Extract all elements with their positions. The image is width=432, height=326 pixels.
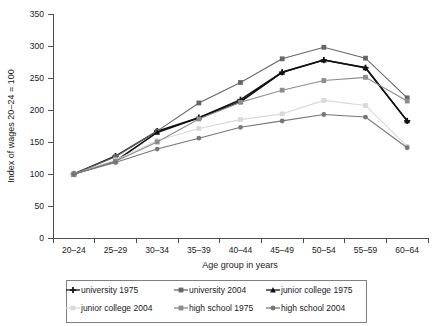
data-point-marker (179, 288, 184, 293)
x-tick-label: 35–39 (187, 245, 211, 255)
x-tick-label: 55–59 (354, 245, 378, 255)
data-point-marker (238, 117, 243, 122)
x-tick-label: 45–49 (270, 245, 294, 255)
legend-label: university 1975 (81, 285, 138, 295)
x-tick-label: 50–54 (312, 245, 336, 255)
data-point-marker (405, 145, 410, 150)
y-tick-label: 250 (30, 73, 44, 83)
y-tick-label: 50 (35, 201, 45, 211)
data-point-marker (363, 103, 368, 108)
data-point-marker (196, 126, 201, 131)
wage-index-line-chart: 050100150200250300350 20–2425–2930–3435–… (0, 0, 432, 326)
data-point-marker (280, 111, 285, 116)
legend-label: junior college 1975 (280, 285, 353, 295)
series-junior-college-2004 (71, 98, 409, 176)
x-tick-label: 60–64 (395, 245, 419, 255)
y-tick-label: 300 (30, 41, 44, 51)
legend-label: university 2004 (189, 285, 246, 295)
x-tick-label: 40–44 (229, 245, 253, 255)
data-point-marker (321, 98, 326, 103)
data-point-marker (363, 56, 368, 61)
data-point-marker (280, 88, 285, 93)
y-tick-label: 150 (30, 137, 44, 147)
data-point-marker (155, 140, 160, 145)
y-tick-label: 0 (39, 233, 44, 243)
data-point-marker (238, 80, 243, 85)
data-point-marker (280, 118, 285, 123)
data-point-marker (280, 56, 285, 61)
data-point-marker (196, 117, 201, 122)
data-point-marker (405, 99, 410, 104)
data-point-marker (179, 306, 184, 311)
data-point-marker (71, 172, 76, 177)
x-tick-label: 30–34 (145, 245, 169, 255)
data-point-marker (196, 101, 201, 106)
data-point-marker (238, 125, 243, 130)
y-axis-title: Index of wages 20–24 = 100 (6, 69, 16, 182)
data-point-marker (321, 112, 326, 117)
legend-label: high school 1975 (189, 303, 254, 313)
x-tick-label: 25–29 (104, 245, 128, 255)
data-point-marker (363, 75, 368, 80)
data-point-marker (113, 160, 118, 165)
data-point-marker (321, 78, 326, 83)
data-point-marker (321, 45, 326, 50)
y-axis-ticks: 050100150200250300350 (30, 9, 53, 243)
data-point-marker (238, 100, 243, 105)
chart-figure: 050100150200250300350 20–2425–2930–3435–… (0, 0, 432, 326)
x-tick-label: 20–24 (62, 245, 86, 255)
data-point-marker (363, 115, 368, 120)
legend-label: junior college 2004 (80, 303, 153, 313)
data-point-marker (155, 147, 160, 152)
y-tick-label: 350 (30, 9, 44, 19)
x-axis-title: Age group in years (202, 260, 278, 270)
data-point-marker (271, 306, 276, 311)
data-point-marker (196, 136, 201, 141)
y-tick-label: 100 (30, 169, 44, 179)
legend-label: high school 2004 (281, 303, 346, 313)
series-layer (71, 45, 411, 177)
y-tick-label: 200 (30, 105, 44, 115)
x-axis-ticks: 20–2425–2930–3435–3940–4445–4950–5455–59… (53, 238, 428, 255)
data-point-marker (71, 306, 76, 311)
